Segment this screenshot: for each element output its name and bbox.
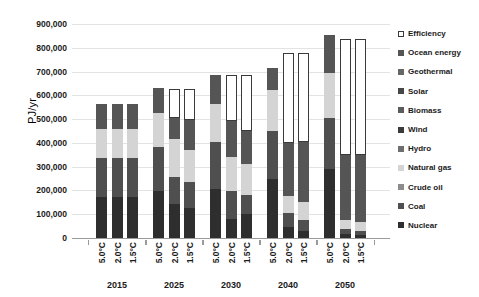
legend-label: Nuclear: [408, 221, 437, 230]
bar-2040-5-0°C[interactable]: [267, 68, 278, 238]
bar-segment-ocean-energy: [340, 155, 351, 220]
legend-label: Crude oil: [408, 183, 443, 192]
bar-segment-ocean-energy: [153, 88, 164, 113]
axis-tick: [260, 240, 261, 245]
legend-swatch-natural-gas-icon: [398, 165, 404, 171]
bar-segment-ocean-energy: [283, 143, 294, 196]
y-tick-label: 900,000: [36, 19, 67, 29]
bar-2025-5-0°C[interactable]: [153, 88, 164, 238]
bar-segment-natural-gas: [169, 139, 180, 178]
legend-swatch-biomass-icon: [398, 107, 404, 113]
bar-segment-nuclear: [184, 208, 195, 238]
legend-label: Wind: [408, 125, 427, 134]
bar-segment-nuclear: [96, 197, 107, 238]
y-tick-label: 500,000: [36, 114, 67, 124]
x-tick-label-2015-5-0°C: 5.0°C: [97, 242, 107, 263]
bar-2050-1-5°C[interactable]: [355, 39, 366, 238]
bar-2015-2-0°C[interactable]: [112, 104, 123, 238]
x-tick-label-2030-2-0°C: 2.0°C: [227, 242, 237, 263]
bar-2015-1-5°C[interactable]: [127, 104, 138, 238]
legend-label: Natural gas: [408, 163, 452, 172]
bar-segment-natural-gas: [298, 202, 309, 220]
legend-swatch-nuclear-icon: [398, 222, 404, 228]
bar-2030-1-5°C[interactable]: [241, 75, 252, 238]
axis-tick: [374, 240, 375, 245]
axis-tick: [316, 240, 317, 245]
legend-swatch-solar-icon: [398, 88, 404, 94]
legend-swatch-coal-icon: [398, 203, 404, 209]
legend-item-natural-gas[interactable]: Natural gas: [398, 158, 477, 177]
bar-2025-1-5°C[interactable]: [184, 89, 195, 238]
x-group-label-2025: 2025: [164, 280, 184, 290]
bar-segment-ocean-energy: [355, 155, 366, 222]
legend-item-geothermal[interactable]: Geothermal: [398, 62, 477, 81]
bar-segment-coal: [112, 158, 123, 197]
bar-segment-coal: [226, 191, 237, 220]
bar-segment-natural-gas: [226, 157, 237, 191]
bar-segment-nuclear: [169, 204, 180, 238]
bar-2040-2-0°C[interactable]: [283, 53, 294, 238]
bar-segment-natural-gas: [184, 150, 195, 182]
bar-segment-natural-gas: [283, 196, 294, 213]
x-group-label-2040: 2040: [278, 280, 298, 290]
bar-segment-ocean-energy: [241, 131, 252, 164]
bar-segment-nuclear: [283, 227, 294, 238]
x-tick-label-2050-2-0°C: 2.0°C: [341, 242, 351, 263]
bar-segment-coal: [210, 142, 221, 189]
bar-segment-coal: [298, 220, 309, 231]
y-tick-label: 700,000: [36, 67, 67, 77]
bar-segment-ocean-energy: [324, 35, 335, 72]
bar-segment-ocean-energy: [96, 104, 107, 129]
bar-2015-5-0°C[interactable]: [96, 104, 107, 238]
bar-segment-coal: [96, 158, 107, 197]
bar-segment-natural-gas: [241, 164, 252, 195]
bar-segment-nuclear: [226, 219, 237, 238]
axis-tick: [145, 240, 146, 245]
bar-2025-2-0°C[interactable]: [169, 89, 180, 238]
x-axis: 5.0°C2.0°C1.5°C20155.0°C2.0°C1.5°C20255.…: [72, 240, 390, 295]
bar-segment-efficiency: [298, 53, 309, 142]
bar-segment-efficiency: [226, 75, 237, 121]
bar-segment-ocean-energy: [184, 120, 195, 150]
legend-swatch-crude-oil-icon: [398, 184, 404, 190]
bar-2040-1-5°C[interactable]: [298, 53, 309, 238]
x-tick-label-2015-2-0°C: 2.0°C: [113, 242, 123, 263]
legend-item-ocean-energy[interactable]: Ocean energy: [398, 43, 477, 62]
bar-segment-natural-gas: [324, 73, 335, 118]
legend-item-efficiency[interactable]: Efficiency: [398, 24, 477, 43]
x-tick-label-2025-5-0°C: 5.0°C: [154, 242, 164, 263]
bar-segment-coal: [241, 195, 252, 214]
x-tick-label-2040-2-0°C: 2.0°C: [284, 242, 294, 263]
bar-segment-coal: [184, 182, 195, 208]
legend-item-hydro[interactable]: Hydro: [398, 139, 477, 158]
bar-segment-nuclear: [210, 189, 221, 238]
gridline: [72, 238, 390, 239]
bar-segment-nuclear: [153, 191, 164, 238]
bar-segment-coal: [267, 131, 278, 179]
legend-label: Biomass: [408, 106, 441, 115]
plot-area: 900,000800,000700,000600,000500,000400,0…: [72, 24, 390, 238]
bar-2030-5-0°C[interactable]: [210, 75, 221, 238]
bar-segment-nuclear: [324, 169, 335, 238]
bar-2030-2-0°C[interactable]: [226, 75, 237, 238]
legend-label: Geothermal: [408, 67, 452, 76]
x-tick-label-2030-1-5°C: 1.5°C: [242, 242, 252, 263]
bar-2050-2-0°C[interactable]: [340, 39, 351, 238]
legend-item-coal[interactable]: Coal: [398, 197, 477, 216]
bar-segment-natural-gas: [153, 113, 164, 147]
legend-swatch-geothermal-icon: [398, 69, 404, 75]
legend-item-solar[interactable]: Solar: [398, 82, 477, 101]
legend-item-biomass[interactable]: Biomass: [398, 101, 477, 120]
bar-segment-ocean-energy: [226, 121, 237, 157]
x-tick-label-2025-2-0°C: 2.0°C: [170, 242, 180, 263]
legend-item-wind[interactable]: Wind: [398, 120, 477, 139]
bar-segment-coal: [283, 213, 294, 227]
bar-segment-ocean-energy: [267, 68, 278, 90]
legend-swatch-wind-icon: [398, 127, 404, 133]
bar-segment-nuclear: [355, 235, 366, 238]
bar-segment-natural-gas: [210, 104, 221, 142]
legend-item-crude-oil[interactable]: Crude oil: [398, 178, 477, 197]
bar-2050-5-0°C[interactable]: [324, 35, 335, 238]
bar-segment-natural-gas: [355, 222, 366, 232]
legend-item-nuclear[interactable]: Nuclear: [398, 216, 477, 235]
